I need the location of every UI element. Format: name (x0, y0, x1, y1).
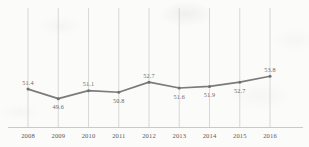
data-point-2012 (148, 81, 151, 84)
tick-label-2016: 2016 (263, 133, 277, 140)
data-point-2013 (178, 87, 181, 90)
gridlines (28, 8, 270, 127)
data-point-2015 (238, 81, 241, 84)
tick-label-2012: 2012 (142, 133, 156, 140)
value-label-2015: 52.7 (234, 88, 246, 94)
data-point-2014 (208, 85, 211, 88)
data-point-2010 (87, 89, 90, 92)
line-chart: 51.449.651.150.852.751.651.952.753.8 200… (0, 0, 309, 147)
value-label-2013: 51.6 (173, 94, 185, 100)
data-point-2009 (57, 97, 60, 100)
tick-label-2010: 2010 (82, 133, 96, 140)
value-label-2010: 51.1 (83, 81, 95, 87)
value-label-2012: 52.7 (143, 73, 155, 79)
data-point-2016 (269, 75, 272, 78)
value-label-2016: 53.8 (264, 67, 276, 73)
tick-label-2013: 2013 (173, 133, 187, 140)
tick-label-2008: 2008 (21, 133, 35, 140)
data-point-2011 (117, 91, 120, 94)
value-label-2009: 49.6 (52, 104, 64, 110)
tick-label-2009: 2009 (52, 133, 66, 140)
tick-label-2015: 2015 (233, 133, 247, 140)
value-label-2008: 51.4 (22, 80, 34, 86)
tick-label-2011: 2011 (112, 133, 125, 140)
data-point-2008 (27, 88, 30, 91)
value-label-2014: 51.9 (204, 92, 216, 98)
tick-label-2014: 2014 (203, 133, 217, 140)
value-label-2011: 50.8 (113, 98, 125, 104)
